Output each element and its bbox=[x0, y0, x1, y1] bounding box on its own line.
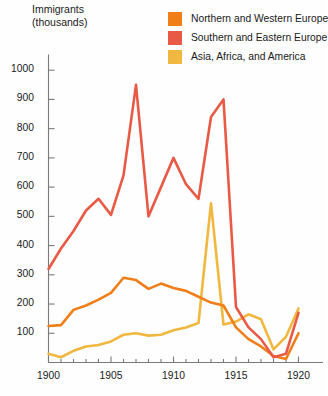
y-tick-label: 400 bbox=[0, 239, 34, 250]
series-line bbox=[49, 203, 299, 357]
x-tick-label: 1905 bbox=[91, 370, 131, 381]
y-tick-label: 500 bbox=[0, 209, 34, 220]
y-tick-label: 1000 bbox=[0, 63, 34, 74]
x-tick-label: 1900 bbox=[29, 370, 69, 381]
y-tick-label: 100 bbox=[0, 326, 34, 337]
series-line bbox=[49, 85, 299, 357]
y-tick-label: 200 bbox=[0, 297, 34, 308]
y-tick-label: 700 bbox=[0, 151, 34, 162]
series-layer bbox=[49, 85, 299, 359]
y-tick-label: 600 bbox=[0, 180, 34, 191]
x-tick-label: 1915 bbox=[216, 370, 256, 381]
y-tick-label: 900 bbox=[0, 92, 34, 103]
y-tick-label: 300 bbox=[0, 268, 34, 279]
y-tick-label: 800 bbox=[0, 122, 34, 133]
x-tick-label: 1920 bbox=[279, 370, 319, 381]
x-tick-label: 1910 bbox=[154, 370, 194, 381]
